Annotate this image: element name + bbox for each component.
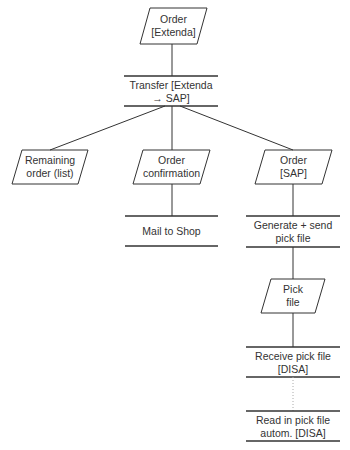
label-line: confirmation [133, 167, 210, 180]
label-line: Order [133, 154, 210, 167]
node-remaining-order-label: Remaining order (list) [12, 154, 88, 180]
node-order-extenda-label: Order [Extenda] [140, 13, 207, 39]
label-line: Remaining [12, 154, 88, 167]
label-line: Read in pick file [246, 414, 340, 427]
label-line: Generate + send [246, 219, 340, 232]
label-line: → SAP] [124, 92, 218, 105]
label-line: [DISA] [246, 363, 340, 376]
node-transfer-label: Transfer [Extenda → SAP] [124, 79, 218, 105]
edge-transfer-order-sap [180, 106, 293, 150]
label-line: Mail to Shop [125, 225, 218, 238]
label-line: autom. [DISA] [246, 427, 340, 440]
label-line: Transfer [Extenda [124, 79, 218, 92]
label-line: order (list) [12, 167, 88, 180]
node-generate-send-label: Generate + send pick file [246, 219, 340, 245]
label-line: [SAP] [255, 167, 332, 180]
node-pick-file-label: Pick file [261, 283, 325, 309]
label-line: pick file [246, 232, 340, 245]
edge-transfer-remaining [50, 106, 165, 150]
label-line: Receive pick file [246, 350, 340, 363]
label-line: Order [140, 13, 207, 26]
label-line: [Extenda] [140, 26, 207, 39]
node-mail-to-shop-label: Mail to Shop [125, 225, 218, 238]
node-order-sap-label: Order [SAP] [255, 154, 332, 180]
label-line: file [261, 296, 325, 309]
node-read-in-pick-file-label: Read in pick file autom. [DISA] [246, 414, 340, 440]
label-line: Pick [261, 283, 325, 296]
node-order-confirmation-label: Order confirmation [133, 154, 210, 180]
label-line: Order [255, 154, 332, 167]
node-receive-pick-file-label: Receive pick file [DISA] [246, 350, 340, 376]
